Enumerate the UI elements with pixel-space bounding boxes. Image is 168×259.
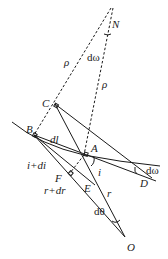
label-r-plus-dr: r+dr	[44, 184, 66, 196]
label-dtheta: dθ	[94, 205, 105, 217]
label-f: F	[54, 172, 62, 184]
line-c-d	[55, 104, 152, 178]
label-rho-left: ρ	[63, 56, 69, 68]
angle-arc-i	[91, 157, 94, 166]
right-angle-f	[68, 171, 73, 176]
label-d: D	[139, 177, 148, 189]
label-i: i	[98, 166, 101, 178]
label-r: r	[107, 187, 112, 199]
label-a: A	[90, 142, 98, 154]
label-o: O	[127, 241, 135, 253]
label-b: B	[26, 123, 33, 135]
label-n: N	[111, 18, 120, 30]
angle-arc-domega-n	[104, 34, 111, 35]
label-rho-right: ρ	[101, 78, 107, 90]
label-dl: dl	[50, 133, 59, 145]
dashed-line-n-a	[84, 8, 113, 155]
label-e: E	[83, 182, 91, 194]
label-i-plus-di: i+di	[27, 159, 46, 171]
label-domega-right: dω	[146, 164, 159, 176]
label-domega-top: dω	[87, 51, 100, 63]
label-c: C	[42, 97, 50, 109]
geometry-diagram: N C B A D E F O ρ ρ dω dω dl i+di r+dr i…	[0, 0, 168, 259]
dashed-line-n-b	[34, 8, 111, 135]
